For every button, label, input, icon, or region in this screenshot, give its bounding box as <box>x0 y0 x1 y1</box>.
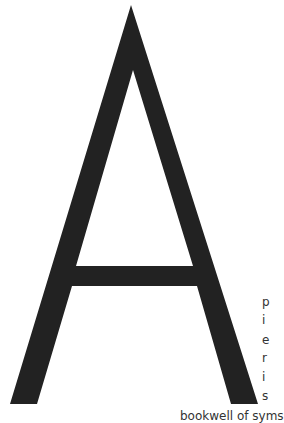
side-text-char: e <box>262 334 269 346</box>
side-text-char: s <box>262 390 268 402</box>
side-text-char: r <box>262 352 267 364</box>
bottom-text-line: bookwell of syms <box>180 410 284 422</box>
letter-a-shape <box>10 5 258 404</box>
side-text-char: p <box>262 296 270 308</box>
side-text-char: i <box>262 314 265 326</box>
side-text-char: i <box>262 371 265 383</box>
